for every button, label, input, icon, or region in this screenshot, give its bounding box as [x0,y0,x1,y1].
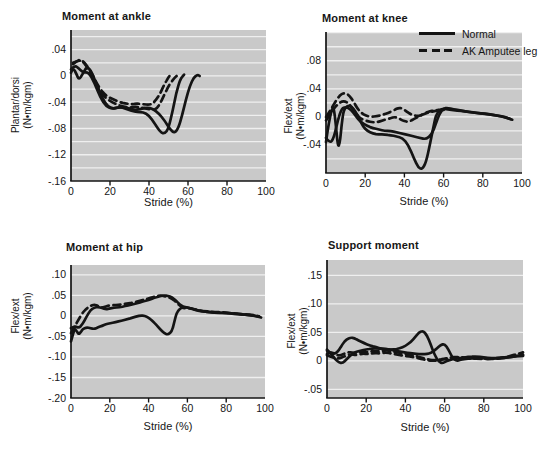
y-tick-label: -.05 [48,330,66,342]
gait-moments-figure: Moment at ankle Plantar/dorsi (N•m/kgm) … [0,0,546,450]
legend-item-normal: Normal [419,25,537,42]
plot-area [71,30,266,181]
hip-x-axis-label: Stride (%) [71,420,265,432]
legend: Normal AK Amputee leg [419,25,537,59]
y-tick-label: .04 [306,82,321,94]
y-tick-label: 0 [60,309,66,321]
legend-label: AK Amputee leg [462,45,537,57]
x-tick-label: 60 [438,177,450,189]
x-tick-label: 0 [324,402,330,414]
y-tick-label: .10 [307,297,322,309]
y-tick-label: 0 [60,69,66,81]
y-tick-label: -.04 [48,96,66,108]
x-tick-label: 100 [256,402,274,414]
y-tick-label: -.10 [48,350,66,362]
y-tick-label: -.08 [48,122,66,134]
hip-moment-chart: Moment at hip Flex/ext (N•m/kgm) 0204060… [0,225,273,450]
ankle-plot-canvas: 020406080100.040-.04-.08-.12-.16 [0,0,273,225]
x-tick-label: 60 [439,402,451,414]
support-plot-canvas: 020406080100.15.10.050-.05 [273,225,546,450]
x-tick-label: 20 [359,177,371,189]
x-tick-label: 100 [513,177,531,189]
dashed-line-sample [419,49,455,52]
knee-moment-chart: Moment at knee Flex/ext (N•m/kgm) 020406… [273,0,546,225]
legend-label: Normal [462,28,496,40]
y-tick-label: 0 [315,110,321,122]
ankle-x-axis-label: Stride (%) [71,196,266,208]
x-tick-label: 40 [400,402,412,414]
x-tick-label: 20 [104,402,116,414]
hip-plot-canvas: 020406080100.10.050-.05-.10-.15-.20 [0,225,273,450]
y-tick-label: -.05 [304,383,322,395]
y-tick-label: -.12 [48,148,66,160]
y-tick-label: .08 [306,54,321,66]
x-tick-label: 80 [220,402,232,414]
y-tick-label: .10 [51,268,66,280]
y-tick-label: 0 [316,354,322,366]
y-tick-label: -.20 [48,392,66,404]
x-tick-label: 0 [68,402,74,414]
support-moment-chart: Support moment Flex/ext (N•m/kgm) 020406… [273,225,546,450]
caption-fragment: ankle, knee and hip moments during walki… [128,443,528,450]
y-tick-label: .05 [51,289,66,301]
y-tick-label: .04 [51,43,66,55]
y-tick-label: .15 [307,269,322,281]
x-tick-label: 40 [399,177,411,189]
x-tick-label: 100 [514,402,532,414]
x-tick-label: 40 [143,402,155,414]
x-tick-label: 80 [477,177,489,189]
y-tick-label: -.04 [303,138,321,150]
legend-item-ak-amputee: AK Amputee leg [419,42,537,59]
ankle-moment-chart: Moment at ankle Plantar/dorsi (N•m/kgm) … [0,0,273,225]
x-tick-label: 60 [182,402,194,414]
knee-x-axis-label: Stride (%) [326,195,522,207]
y-tick-label: -.16 [48,175,66,187]
plot-area [327,260,523,398]
y-tick-label: -.15 [48,371,66,383]
x-tick-label: 0 [323,177,329,189]
y-tick-label: .05 [307,326,322,338]
x-tick-label: 20 [360,402,372,414]
x-tick-label: 80 [478,402,490,414]
support-x-axis-label: Stride (%) [327,421,523,433]
solid-line-sample [419,32,455,35]
